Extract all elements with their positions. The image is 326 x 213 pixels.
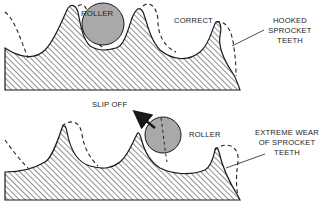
roller-label-bottom: ROLLER	[189, 130, 221, 140]
top-sprocket	[5, 3, 264, 90]
hooked-label: HOOKED SPROCKET TEETH	[262, 16, 318, 46]
wear-label: EXTREME WEAR OF SPROCKET TEETH	[250, 128, 324, 158]
roller-circle-bottom	[145, 117, 181, 153]
hooked-pointer	[232, 30, 264, 46]
slip-off-label: SLIP OFF	[92, 100, 127, 110]
bottom-sprocket	[5, 116, 265, 200]
correct-label: CORRECT	[174, 16, 213, 26]
correct-profile-b1	[5, 140, 28, 168]
roller-label-top: ROLLER	[81, 9, 113, 19]
